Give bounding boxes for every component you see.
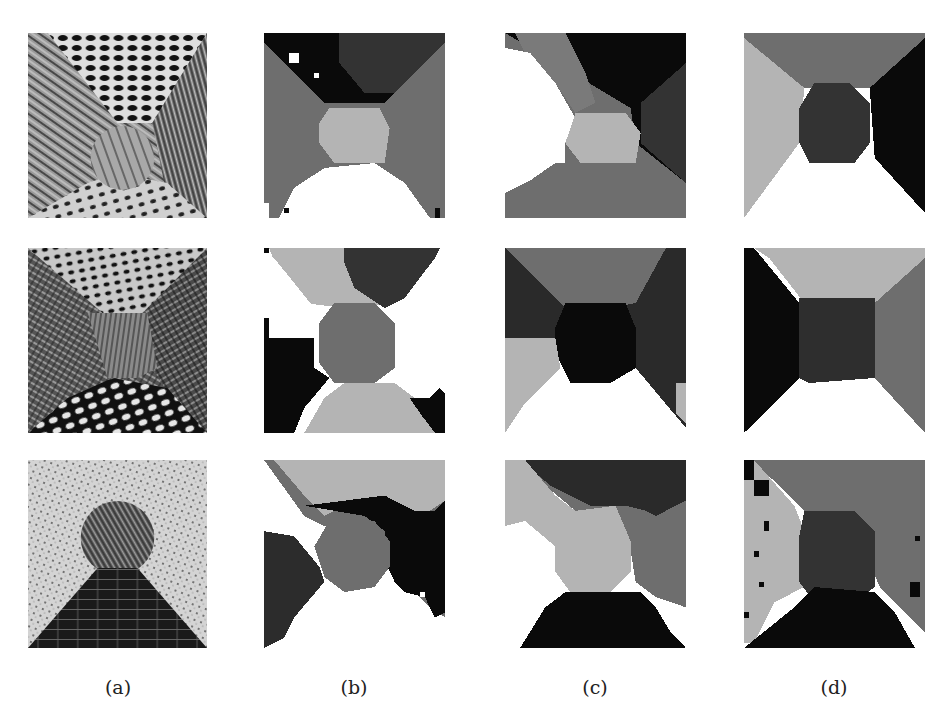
segmentation-c-row3 [505, 460, 686, 648]
segmentation-c-row1 [505, 33, 686, 218]
input-image-row1 [28, 33, 207, 218]
column-label-a: (a) [28, 676, 208, 698]
segmentation-b-row2 [264, 248, 445, 433]
segmentation-b-row3 [264, 460, 445, 648]
input-image-row2 [28, 248, 207, 433]
column-label-c: (c) [505, 676, 685, 698]
column-label-b: (b) [264, 676, 444, 698]
column-label-d: (d) [744, 676, 924, 698]
input-image-row3 [28, 460, 207, 648]
segmentation-d-row1 [744, 33, 925, 218]
segmentation-d-row3 [744, 460, 925, 648]
segmentation-b-row1 [264, 33, 445, 218]
segmentation-d-row2 [744, 248, 925, 433]
segmentation-c-row2 [505, 248, 686, 433]
